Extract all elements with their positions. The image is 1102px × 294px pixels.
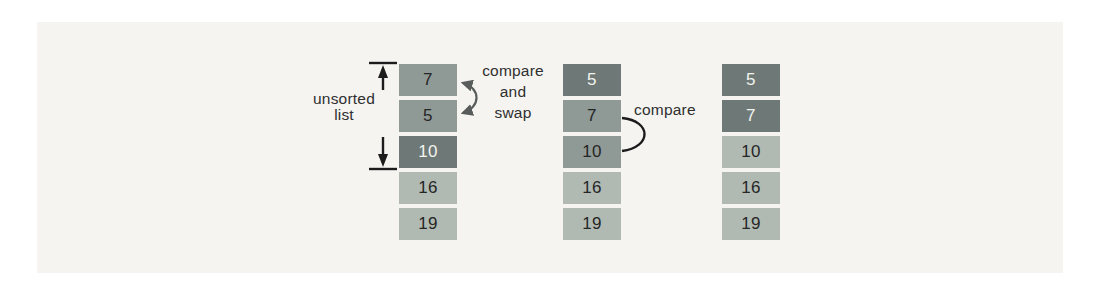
compare-and-swap-label: compare and swap [476, 60, 550, 123]
compare-and-swap-label-line2: and [476, 81, 550, 102]
compare-and-swap-label-line1: compare [476, 60, 550, 81]
list-cell: 10 [722, 136, 780, 168]
figure-background [37, 22, 1063, 273]
list-cell: 5 [399, 100, 457, 132]
list-cell: 7 [399, 64, 457, 96]
list-step-1: 7 5 10 16 19 [399, 64, 457, 244]
list-cell: 7 [563, 100, 621, 132]
list-cell: 19 [563, 208, 621, 240]
list-cell: 16 [399, 172, 457, 204]
list-cell: 10 [563, 136, 621, 168]
compare-and-swap-label-line3: swap [476, 102, 550, 123]
list-cell: 19 [722, 208, 780, 240]
list-step-3: 5 7 10 16 19 [722, 64, 780, 244]
list-cell: 16 [722, 172, 780, 204]
list-cell: 7 [722, 100, 780, 132]
list-cell: 5 [722, 64, 780, 96]
list-cell: 19 [399, 208, 457, 240]
list-cell: 5 [563, 64, 621, 96]
compare-label: compare [634, 102, 710, 118]
compare-label-text: compare [634, 101, 696, 118]
list-cell: 16 [563, 172, 621, 204]
insertion-sort-diagram: unsorted list 7 5 10 16 19 compare and [0, 0, 1102, 294]
list-step-2: 5 7 10 16 19 [563, 64, 621, 244]
list-cell: 10 [399, 136, 457, 168]
